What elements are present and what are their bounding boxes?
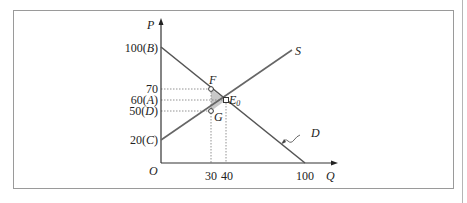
x-tick-100: 100 [296, 169, 314, 183]
y-tick-20-c: 20(C) [130, 133, 158, 147]
point-e0 [224, 98, 229, 103]
origin-label: O [149, 164, 158, 178]
y-tick-100-b: 100(B) [125, 41, 158, 55]
y-tick-50-d: 50(D) [129, 104, 158, 118]
x-axis-arrow-icon [331, 161, 338, 166]
supply-label: S [295, 44, 301, 58]
x-axis-label: Q [326, 169, 335, 183]
y-axis-arrow-icon [159, 18, 164, 25]
point-g [209, 109, 214, 114]
supply-demand-diagram: P Q O 100(B) 70 60(A) 50(D) 20(C) 30 40 … [0, 0, 467, 203]
point-g-label: G [214, 110, 223, 124]
point-e0-label: E0 [228, 93, 240, 108]
x-tick-40: 40 [221, 169, 233, 183]
point-f-label: F [208, 73, 217, 87]
guide-lines [161, 89, 226, 163]
point-f [209, 87, 214, 92]
y-axis-label: P [146, 18, 155, 32]
x-tick-30: 30 [205, 169, 217, 183]
demand-label: D [310, 126, 320, 140]
axes [161, 22, 334, 163]
